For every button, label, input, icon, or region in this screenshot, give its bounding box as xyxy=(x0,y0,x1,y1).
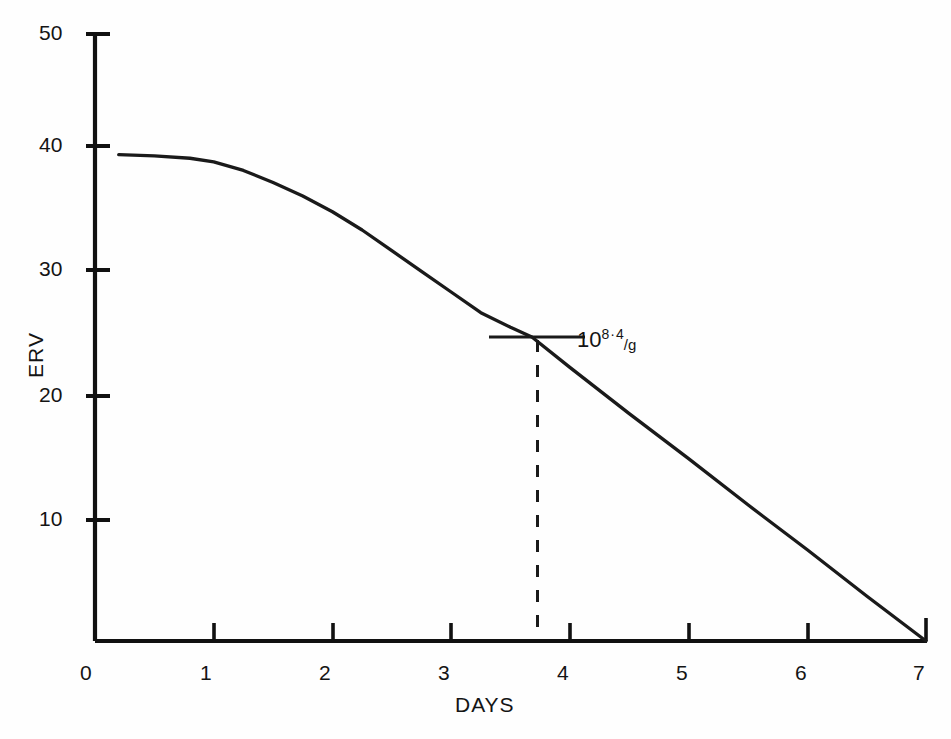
y-tick-label-20: 20 xyxy=(39,383,62,407)
x-tick-label-0: 0 xyxy=(80,661,92,685)
y-tick-label-50: 50 xyxy=(39,21,62,45)
x-axis-ticks xyxy=(214,618,926,641)
chart-figure: 50 40 30 20 10 0 1 2 3 4 5 6 7 ERV DAYS … xyxy=(0,0,951,739)
erv-decay-polyline xyxy=(119,155,926,641)
x-tick-label-7: 7 xyxy=(913,661,925,685)
callout-decimal: 4 xyxy=(616,326,624,342)
y-tick-label-40: 40 xyxy=(39,133,62,157)
callout-annotation-text: 108·4/g xyxy=(577,327,636,351)
x-tick-label-2: 2 xyxy=(319,661,331,685)
y-tick-label-10: 10 xyxy=(39,507,62,531)
callout-unit: /g xyxy=(624,336,637,353)
x-tick-label-6: 6 xyxy=(795,661,807,685)
x-axis-title: DAYS xyxy=(455,693,515,717)
x-tick-label-4: 4 xyxy=(557,661,569,685)
x-tick-label-3: 3 xyxy=(438,661,450,685)
y-tick-label-30: 30 xyxy=(39,257,62,281)
callout-base: 10 xyxy=(577,327,601,352)
y-axis-ticks xyxy=(86,34,110,520)
y-axis-title: ERV xyxy=(24,325,48,385)
x-tick-label-5: 5 xyxy=(676,661,688,685)
callout-separator: · xyxy=(609,326,616,342)
x-tick-label-1: 1 xyxy=(200,661,212,685)
chart-plot-area xyxy=(0,0,951,739)
